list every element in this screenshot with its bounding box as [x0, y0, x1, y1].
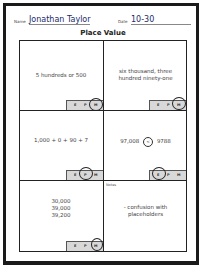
page-title: Place Value — [0, 29, 206, 37]
circled-m-mark — [91, 238, 103, 251]
option-e[interactable]: E — [74, 103, 76, 107]
cell-5-line-2: 39,000 — [19, 205, 103, 212]
cell-3-epm-selector[interactable]: E P M — [66, 170, 103, 180]
cell-5-epm-selector[interactable]: E P M — [66, 241, 103, 251]
option-e[interactable]: E — [74, 173, 76, 177]
cell-3-line-1: 1,000 + 0 + 90 + 7 — [19, 137, 103, 144]
cell-3-text: 1,000 + 0 + 90 + 7 — [19, 137, 103, 144]
option-e[interactable]: E — [157, 103, 159, 107]
cell-5-text: 30,000 39,000 39,200 — [19, 198, 103, 219]
notes-text[interactable]: - confusion with placeholders — [104, 204, 187, 218]
grid-divider-row-1 — [19, 110, 187, 111]
date-underline — [131, 24, 191, 25]
option-p[interactable]: P — [167, 103, 170, 107]
circled-p-mark — [79, 167, 93, 180]
notes-label: Notes — [106, 183, 116, 187]
notes-line-2: placeholders — [104, 211, 187, 218]
option-m[interactable]: M — [177, 173, 180, 177]
cell-4-value-right: 9788 — [157, 138, 171, 144]
option-p[interactable]: P — [84, 244, 87, 248]
option-m[interactable]: M — [94, 173, 97, 177]
option-e[interactable]: E — [74, 244, 76, 248]
name-label: Name — [14, 19, 26, 24]
cell-1-epm-selector[interactable]: E P M — [66, 100, 103, 110]
name-value[interactable]: Jonathan Taylor — [29, 15, 91, 24]
cell-1-text: 5 hundreds or 500 — [19, 72, 103, 79]
cell-2-text: six thousand, three hundred ninety-one — [104, 68, 187, 82]
option-p[interactable]: P — [167, 173, 170, 177]
cell-4-text: 97,008 < 9788 — [104, 137, 187, 147]
cell-2-line-1: six thousand, three — [104, 68, 187, 75]
cell-2-epm-selector[interactable]: E P M — [149, 100, 186, 110]
notes-line-1: - confusion with — [104, 204, 187, 211]
name-underline — [29, 24, 90, 25]
circled-e-mark — [152, 167, 166, 180]
comparison-symbol-circle: < — [143, 137, 153, 147]
date-label: Date — [118, 19, 128, 24]
cell-1-line-1: 5 hundreds or 500 — [19, 72, 103, 79]
option-p[interactable]: P — [84, 103, 87, 107]
cell-5-line-1: 30,000 — [19, 198, 103, 205]
cell-4-epm-selector[interactable]: E P M — [149, 170, 186, 180]
date-value[interactable]: 10-30 — [131, 15, 154, 24]
cell-4-value-left: 97,008 — [120, 138, 139, 144]
circled-m-mark — [172, 97, 186, 110]
grid-divider-row-2 — [19, 180, 187, 181]
cell-2-line-2: hundred ninety-one — [104, 75, 187, 82]
circled-m-mark — [89, 98, 103, 111]
cell-5-line-3: 39,200 — [19, 212, 103, 219]
